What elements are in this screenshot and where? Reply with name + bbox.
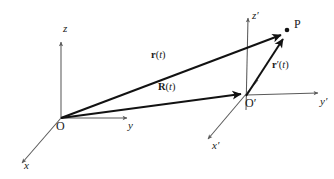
vector-r-label: r(t) xyxy=(151,50,166,61)
vector-R-label: R(t) xyxy=(158,82,176,93)
vector-r-prime-label: r′(t) xyxy=(272,60,289,71)
y-prime-axis xyxy=(246,93,318,95)
vector-R-paren-close: ) xyxy=(172,81,176,92)
x-axis-label: x xyxy=(24,160,29,171)
x-prime-axis-label: x′ xyxy=(212,140,219,151)
origin-O-label: O xyxy=(56,120,65,132)
y-prime-axis-label: y′ xyxy=(320,96,327,107)
vector-R-symbol: R xyxy=(158,81,166,92)
vector-r-prime-paren-close: ) xyxy=(285,59,289,70)
moving-frame-axes xyxy=(208,18,318,139)
z-prime-axis-label: z′ xyxy=(252,10,259,21)
vector-R xyxy=(61,94,241,118)
point-P-label: P xyxy=(294,18,301,30)
z-axis-label: z xyxy=(63,23,67,34)
vector-r-paren-close: ) xyxy=(162,49,166,60)
point-P-marker xyxy=(285,28,290,33)
fixed-frame-axes xyxy=(22,42,127,163)
origin-O-prime-label: O′ xyxy=(245,97,256,109)
y-axis-label: y xyxy=(128,120,133,131)
vector-diagram-figure: z y x z′ y′ x′ O O′ P r(t) R(t) r′(t) xyxy=(0,0,334,179)
